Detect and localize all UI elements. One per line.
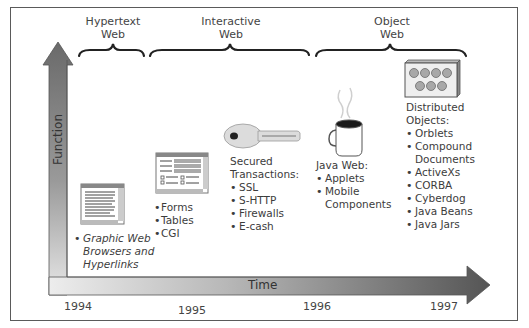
bullet-item: CORBA (406, 179, 475, 192)
bullet-item: Java Beans (406, 205, 475, 218)
bullet-item-continued: Hyperlinks (74, 258, 154, 271)
stage-distributed-objects: Distributed Objects: Orblets Compound Do… (406, 101, 475, 231)
bullet-item: Firewalls (230, 207, 299, 220)
bullet-item: Orblets (406, 127, 475, 140)
bullet-item: Mobile (316, 185, 391, 198)
function-axis-label: Function (51, 114, 65, 165)
key-icon (224, 124, 300, 148)
year-tick-1995: 1995 (178, 304, 206, 317)
stage-heading: Java Web: (316, 159, 391, 172)
bullet-item: Java Jars (406, 218, 475, 231)
era-label-interactive-web: Interactive Web (196, 15, 266, 41)
brace-object-web (316, 44, 466, 56)
stage-java-web: Java Web: Applets Mobile Components (316, 159, 391, 211)
era-label-line2: Web (196, 28, 266, 41)
era-label-line1: Hypertext (82, 15, 144, 28)
bullet-item: S-HTTP (230, 194, 299, 207)
stage-heading-line2: Objects: (406, 114, 475, 127)
form-window-icon (156, 153, 208, 193)
era-label-line2: Web (82, 28, 144, 41)
function-axis-arrow (43, 42, 73, 295)
brace-hypertext-web (79, 44, 144, 56)
stage-heading-line2: Transactions: (230, 168, 299, 181)
stage-forms-tables-cgi: Forms Tables CGI (156, 201, 194, 240)
stage-heading-line1: Distributed (406, 101, 475, 114)
year-tick-1996: 1996 (303, 300, 331, 313)
bullet-item-continued: Browsers and (74, 245, 154, 258)
stage-secured-transactions: Secured Transactions: SSL S-HTTP Firewal… (230, 155, 299, 233)
era-label-hypertext-web: Hypertext Web (82, 15, 144, 41)
bullet-item: E-cash (230, 220, 299, 233)
brace-interactive-web (150, 44, 309, 56)
bullet-item: SSL (230, 181, 299, 194)
era-label-object-web: Object Web (364, 15, 420, 41)
bullet-item: Graphic Web (74, 232, 154, 245)
bullet-item: ActiveXs (406, 166, 475, 179)
era-label-line1: Interactive (196, 15, 266, 28)
era-label-line2: Web (364, 28, 420, 41)
distributed-objects-box-icon (405, 60, 460, 97)
browser-window-icon (81, 184, 124, 224)
bullet-item: Cyberdog (406, 192, 475, 205)
year-tick-1997: 1997 (430, 300, 458, 313)
bullet-item: Tables (154, 214, 194, 227)
year-tick-1994: 1994 (64, 300, 92, 313)
bullet-item: CGI (154, 227, 194, 240)
bullet-item: Forms (154, 201, 194, 214)
stage-heading-line1: Secured (230, 155, 299, 168)
bullet-item-continued: Components (316, 198, 391, 211)
stage-graphic-web-browsers: Graphic Web Browsers and Hyperlinks (74, 232, 154, 271)
era-label-line1: Object (364, 15, 420, 28)
bullet-item: Applets (316, 172, 391, 185)
bullet-item: Compound (406, 140, 475, 153)
bullet-item-continued: Documents (406, 153, 475, 166)
coffee-cup-icon (329, 88, 362, 156)
time-axis-label: Time (248, 278, 277, 292)
